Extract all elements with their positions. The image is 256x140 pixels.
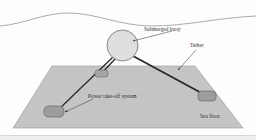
label-tether: Tether [190,42,204,48]
figure-bottom-edge [0,135,256,140]
figure-container: Submerged buoy Tether Power take-off sys… [0,0,256,140]
label-submerged-buoy: Submerged buoy [144,26,181,32]
label-power-take-off-system: Power take-off system [88,93,137,99]
pto-unit-middle [95,70,108,77]
diagram-canvas: Submerged buoy Tether Power take-off sys… [0,0,256,140]
sea-surface-line [0,13,256,26]
label-sea-floor: Sea floor [200,113,220,119]
pto-unit-left [44,106,64,117]
pto-unit-right [198,91,216,101]
submerged-buoy-body [107,30,138,61]
leader-line-submerged-buoy [133,31,172,41]
